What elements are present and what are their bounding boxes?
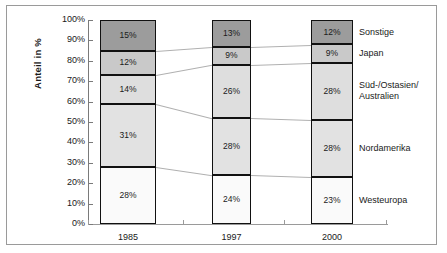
bar-segment-value: 23% [323,196,340,205]
y-axis-tick-mark [88,122,93,123]
bar-segment-value: 15% [119,31,136,40]
connector-line [156,104,212,119]
bar-segment[interactable]: 28% [212,118,251,175]
y-axis-tick-mark [88,204,93,205]
y-axis-tick-label: 80% [51,56,85,65]
y-axis-tick-mark [88,183,93,184]
bar-segment[interactable]: 31% [100,104,156,167]
x-axis-tick-mark [284,220,285,225]
x-axis-tick-mark [88,220,89,225]
stacked-bar-1985[interactable]: 28%31%14%12%15% [100,20,156,224]
bar-segment[interactable]: 23% [311,177,353,224]
legend-item-süd-ostasien-australien[interactable]: Süd-/Ostasien/ Australien [359,80,419,102]
x-axis-label-1985: 1985 [118,232,138,242]
bar-segment-value: 28% [323,87,340,96]
y-axis-tick-label: 50% [51,117,85,126]
y-axis-tick-mark [88,81,93,82]
bar-segment-value: 28% [119,191,136,200]
y-axis-tick-label: 30% [51,158,85,167]
connector-line [251,175,311,178]
bar-segment-value: 9% [225,51,237,60]
bar-segment[interactable]: 15% [100,20,156,51]
connector-line [156,47,212,52]
x-axis-label-1997: 1997 [221,232,241,242]
bar-segment[interactable]: 28% [311,63,353,120]
y-axis-tick-label: 40% [51,137,85,146]
connector-line [251,118,311,121]
connector-line [251,44,311,47]
y-axis-tick-mark [88,61,93,62]
bar-segment[interactable]: 14% [100,75,156,104]
y-axis-tick-mark [88,20,93,21]
legend-item-sonstige[interactable]: Sonstige [359,27,394,38]
legend-item-nordamerika[interactable]: Nordamerika [359,143,411,154]
y-axis-tick-label: 10% [51,199,85,208]
legend-item-japan[interactable]: Japan [359,48,384,59]
connector-line [156,65,212,76]
x-axis-line [88,224,388,225]
y-axis-tick-label: 60% [51,97,85,106]
chart-frame: Anteil in % 100%90%80%70%60%50%40%30%20%… [6,5,437,245]
bar-segment-value: 31% [119,131,136,140]
y-axis-tick-label: 90% [51,35,85,44]
y-axis-tick-mark [88,102,93,103]
x-axis-tick-mark [183,220,184,225]
bar-segment-value: 28% [223,142,240,151]
x-axis-tick-mark [386,220,387,225]
bar-segment-value: 12% [119,58,136,67]
bar-segment-value: 28% [323,144,340,153]
bar-segment[interactable]: 12% [100,51,156,75]
stacked-bar-2000[interactable]: 23%28%28%9%12% [311,20,353,224]
y-axis-tick-labels: 100%90%80%70%60%50%40%30%20%10%0% [45,6,85,244]
y-axis-tick-mark [88,40,93,41]
bar-segment[interactable]: 24% [212,175,251,224]
y-axis-tick-mark [88,142,93,143]
y-axis-tick-label: 0% [51,219,85,228]
bar-segment-value: 13% [223,29,240,38]
y-axis-tick-mark [88,163,93,164]
y-axis-tick-label: 70% [51,76,85,85]
x-axis-label-2000: 2000 [322,232,342,242]
y-axis-tick-label: 100% [51,15,85,24]
bar-segment[interactable]: 13% [212,20,251,47]
legend-item-westeuropa[interactable]: Westeuropa [359,195,407,206]
y-axis-tick-label: 20% [51,178,85,187]
bar-segment-value: 12% [323,28,340,37]
bar-segment[interactable]: 28% [100,167,156,224]
connector-line [251,63,311,66]
bar-segment-value: 14% [119,85,136,94]
bar-segment-value: 26% [223,87,240,96]
stacked-bar-1997[interactable]: 24%28%26%9%13% [212,20,251,224]
bar-segment[interactable]: 12% [311,20,353,44]
connector-line [156,167,212,176]
bar-segment[interactable]: 9% [212,47,251,65]
y-axis-title: Anteil in % [32,18,43,110]
chart-figure: Anteil in % 100%90%80%70%60%50%40%30%20%… [0,0,447,253]
bar-segment[interactable]: 26% [212,65,251,118]
bar-segment-value: 9% [326,49,338,58]
bar-segment[interactable]: 9% [311,44,353,62]
bar-segment[interactable]: 28% [311,120,353,177]
bar-segment-value: 24% [223,195,240,204]
